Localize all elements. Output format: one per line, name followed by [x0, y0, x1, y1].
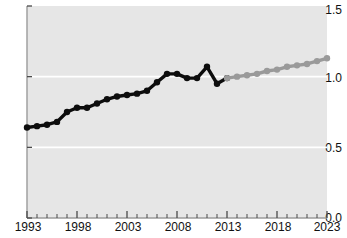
- axis-lines: [27, 6, 327, 218]
- gridlines: [28, 77, 327, 148]
- data-series-layer: [24, 55, 330, 131]
- axis-ticks: [27, 6, 327, 218]
